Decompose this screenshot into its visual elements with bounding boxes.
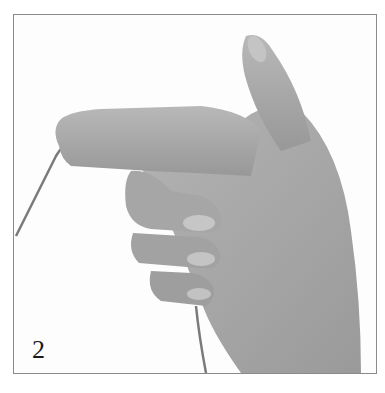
nail-middle [183,215,215,231]
nail-ring [187,252,215,266]
yarn-strand-down [196,306,206,373]
illustration-frame: 2 [13,14,377,374]
hand-with-yarn-illustration [14,15,376,373]
index-finger [55,106,261,176]
nail-little [187,288,211,300]
step-number: 2 [32,337,45,363]
